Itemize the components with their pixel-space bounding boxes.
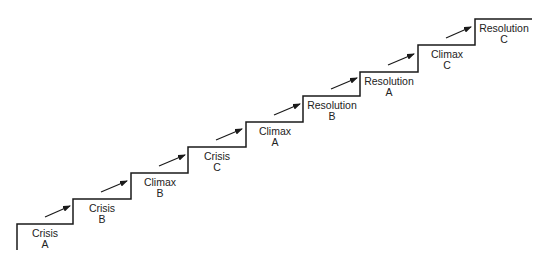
step-letter: B	[125, 188, 195, 199]
arrow-icon	[101, 181, 127, 192]
step-label-resolution-c: Resolution C	[469, 23, 539, 45]
step-letter: C	[412, 60, 482, 71]
step-label-climax-a: Climax A	[240, 126, 310, 148]
step-label-resolution-a: Resolution A	[354, 76, 424, 98]
step-label-resolution-b: Resolution B	[297, 100, 367, 122]
step-letter: A	[354, 87, 424, 98]
step-letter: B	[67, 214, 137, 225]
step-label-climax-b: Climax B	[125, 177, 195, 199]
step-letter: C	[469, 34, 539, 45]
step-label-climax-c: Climax C	[412, 49, 482, 71]
step-letter: B	[297, 111, 367, 122]
step-letter: A	[240, 137, 310, 148]
step-letter: C	[182, 162, 252, 173]
step-label-crisis-b: Crisis B	[67, 203, 137, 225]
arrow-icon	[446, 27, 471, 38]
step-label-crisis-c: Crisis C	[182, 151, 252, 173]
arrow-icon	[216, 129, 242, 140]
step-label-crisis-a: Crisis A	[10, 228, 80, 250]
step-letter: A	[10, 239, 80, 250]
arrow-icon	[388, 54, 414, 65]
